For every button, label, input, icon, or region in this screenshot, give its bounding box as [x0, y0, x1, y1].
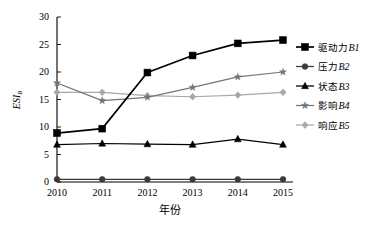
series-b1 — [54, 37, 287, 137]
y-tick-label: 5 — [44, 149, 49, 160]
legend-item-b5[interactable]: 响应B5 — [296, 120, 350, 131]
legend-label: 响应B5 — [318, 120, 350, 131]
chart-legend: 驱动力B1压力B2状态B3影响B4响应B5 — [296, 42, 360, 131]
legend-item-b4[interactable]: 影响B4 — [296, 100, 350, 111]
x-axis-title: 年份 — [159, 203, 181, 217]
data-point-marker — [144, 69, 151, 76]
y-tick-label: 10 — [39, 121, 49, 132]
legend-item-b3[interactable]: 状态B3 — [296, 81, 350, 92]
y-tick-label: 0 — [44, 176, 49, 187]
x-axis-tick-labels: 201020112012201320142015 — [47, 187, 293, 198]
y-axis-tick-labels: 051015202530 — [39, 11, 49, 187]
legend-label: 影响B4 — [318, 100, 350, 111]
y-tick-label: 30 — [39, 11, 49, 22]
data-point-marker — [234, 73, 241, 80]
data-point-marker — [54, 176, 60, 182]
series-line — [57, 139, 283, 145]
data-point-marker — [279, 68, 286, 75]
series-b3 — [54, 135, 287, 147]
legend-item-b1[interactable]: 驱动力B1 — [296, 42, 360, 53]
data-point-marker — [99, 89, 105, 96]
data-point-marker — [145, 176, 151, 182]
data-point-marker — [302, 122, 308, 129]
series-b2 — [54, 176, 286, 182]
y-axis-title-text: ESIB — [11, 91, 23, 110]
y-tick-label: 25 — [39, 39, 49, 50]
legend-item-b2[interactable]: 压力B2 — [296, 61, 350, 72]
y-tick-label: 20 — [39, 66, 49, 77]
data-point-marker — [189, 84, 196, 91]
data-point-marker — [234, 40, 241, 47]
data-point-marker — [235, 92, 241, 99]
data-point-marker — [280, 89, 286, 96]
data-point-marker — [190, 176, 196, 182]
legend-label: 状态B3 — [318, 81, 350, 92]
legend-label: 驱动力B1 — [318, 42, 360, 53]
y-axis-tick-marks — [57, 17, 61, 182]
data-point-marker — [54, 130, 61, 137]
line-chart-svg: 051015202530 201020112012201320142015 ES… — [0, 0, 377, 225]
data-point-marker — [280, 37, 287, 44]
data-point-marker — [235, 176, 241, 182]
series-b4 — [53, 68, 286, 103]
data-point-marker — [280, 176, 286, 182]
series-line — [57, 40, 283, 133]
x-tick-label: 2014 — [228, 187, 248, 198]
data-point-marker — [302, 64, 308, 70]
series-b5 — [54, 89, 286, 100]
data-point-marker — [234, 135, 241, 141]
data-point-marker — [301, 102, 308, 109]
data-point-marker — [54, 89, 60, 96]
x-tick-label: 2010 — [47, 187, 67, 198]
legend-label: 压力B2 — [318, 61, 350, 72]
x-tick-label: 2012 — [137, 187, 157, 198]
x-tick-label: 2015 — [273, 187, 293, 198]
data-point-marker — [189, 52, 196, 59]
data-point-marker — [189, 93, 195, 100]
data-point-marker — [99, 97, 106, 104]
data-series-group — [53, 37, 286, 182]
data-point-marker — [99, 176, 105, 182]
y-axis-title: ESIB — [11, 91, 23, 110]
chart-container: 051015202530 201020112012201320142015 ES… — [0, 0, 377, 225]
data-point-marker — [99, 125, 106, 132]
x-tick-label: 2011 — [92, 187, 112, 198]
x-axis-title-text: 年份 — [159, 203, 181, 217]
y-tick-label: 15 — [39, 94, 49, 105]
data-point-marker — [302, 44, 309, 51]
x-tick-label: 2013 — [183, 187, 203, 198]
